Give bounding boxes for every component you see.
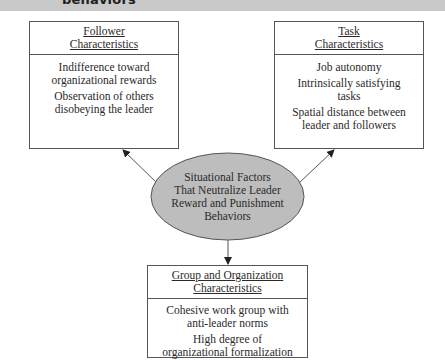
box-items: Job autonomy Intrinsically satisfying ta… [275, 55, 423, 132]
list-item: Intrinsically satisfying tasks [285, 77, 413, 103]
title-line: Characteristics [148, 282, 307, 295]
title-line: Task [275, 25, 423, 38]
box-items: Cohesive work group with anti-leader nor… [148, 299, 307, 359]
box-title: Follower Characteristics [30, 22, 178, 55]
center-line: Situational Factors [184, 171, 271, 184]
list-item: Job autonomy [285, 61, 413, 74]
follower-characteristics-box: Follower Characteristics Indifference to… [29, 21, 179, 149]
center-line: That Neutralize Leader [174, 184, 281, 197]
list-item: High degree of organizational formalizat… [160, 333, 295, 359]
arrow-to-task [299, 150, 334, 183]
center-factors-label: Situational Factors That Neutralize Lead… [151, 153, 304, 240]
title-line: Group and Organization [148, 269, 307, 282]
title-line: Characteristics [275, 38, 423, 51]
task-characteristics-box: Task Characteristics Job autonomy Intrin… [274, 21, 424, 149]
box-title: Task Characteristics [275, 22, 423, 55]
center-line: Reward and Punishment [171, 197, 283, 210]
list-item: Cohesive work group with anti-leader nor… [160, 304, 295, 330]
list-item: Spatial distance between leader and foll… [285, 106, 413, 132]
list-item: Observation of others disobeying the lea… [38, 90, 170, 116]
box-title: Group and Organization Characteristics [148, 266, 307, 299]
list-item: Indifference toward organizational rewar… [38, 61, 170, 87]
box-items: Indifference toward organizational rewar… [30, 55, 178, 116]
center-line: Behaviors [204, 210, 251, 223]
title-line: Follower [30, 25, 178, 38]
title-line: Characteristics [30, 38, 178, 51]
group-organization-characteristics-box: Group and Organization Characteristics C… [147, 265, 308, 358]
